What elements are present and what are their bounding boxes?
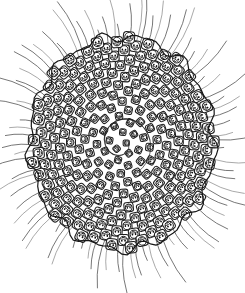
- floret-unit: [156, 124, 166, 134]
- floret-unit: [28, 134, 39, 145]
- floret-unit: [135, 234, 148, 247]
- floret-mark-left: [120, 100, 121, 102]
- floret-unit: [174, 136, 184, 146]
- floret-unit: [117, 170, 125, 178]
- floret-unit: [93, 140, 101, 148]
- floret-unit: [114, 156, 122, 164]
- floret-mark-right: [126, 143, 127, 144]
- floret-unit: [119, 129, 126, 136]
- floret-mark-right: [123, 100, 124, 102]
- floret-unit: [168, 149, 178, 159]
- floret-unit: [54, 117, 66, 129]
- floret-unit: [153, 135, 162, 144]
- floret-unit: [155, 150, 165, 160]
- floret-unit: [59, 128, 70, 139]
- floret-unit: [115, 61, 125, 71]
- floret-unit: [81, 135, 90, 144]
- botanical-figure: Composite flower head: [0, 0, 245, 293]
- floret-unit: [124, 106, 133, 115]
- floret-unit: [75, 144, 84, 153]
- floret-unit: [88, 128, 98, 138]
- floret-unit: [106, 137, 114, 145]
- floret-unit: [106, 215, 117, 226]
- floret-unit: [179, 145, 190, 156]
- floret-unit: [119, 189, 128, 198]
- figure-canvas: [0, 0, 245, 293]
- floret-unit: [118, 97, 126, 105]
- floret-unit: [95, 218, 108, 231]
- floret-unit: [32, 112, 45, 125]
- floret-unit: [72, 126, 82, 136]
- floret-unit: [128, 65, 139, 76]
- floret-unit: [108, 91, 118, 101]
- floret-unit: [67, 138, 76, 147]
- floret-unit: [145, 143, 153, 151]
- floret-unit: [123, 31, 135, 43]
- floret-unit: [106, 238, 118, 250]
- floret-unit: [162, 141, 171, 150]
- floret-unit: [129, 192, 140, 203]
- floret-unit: [123, 177, 132, 186]
- floret-unit: [113, 80, 123, 90]
- floret-unit: [139, 133, 148, 142]
- floret-unit: [110, 181, 119, 190]
- floret-unit: [85, 148, 95, 158]
- floret-unit: [124, 161, 133, 170]
- floret-mark-left: [126, 142, 127, 143]
